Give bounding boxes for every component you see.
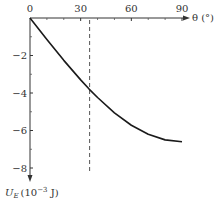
y-tick-label: −4 [12,88,27,99]
x-axis: 0306090 θ (°) [27,3,214,23]
y-tick-label: −2 [12,50,27,61]
y-tick-label: −6 [12,125,27,136]
x-axis-arrow-icon [183,16,190,21]
y-axis-label: UE(10−3 J) [5,186,59,200]
series [30,18,182,142]
y-tick-label: −8 [12,163,27,174]
y-axis-arrow-icon [28,175,33,182]
x-axis-label: θ (°) [192,12,214,23]
chart: 0306090 θ (°) −2−4−6−8 UE(10−3 J) [0,0,215,202]
x-tick-label: 0 [27,3,33,14]
x-tick-label: 60 [125,3,138,14]
x-tick-label: 30 [74,3,87,14]
data-line [30,18,182,142]
x-tick-label: 90 [176,3,189,14]
